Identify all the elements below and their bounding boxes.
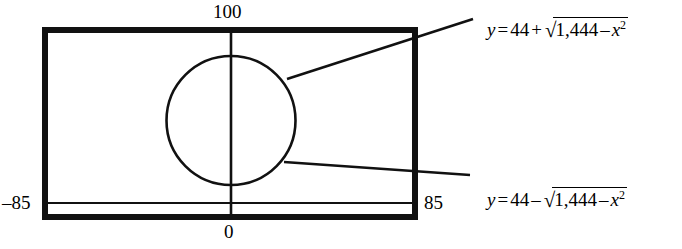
equation-lower-equals: = [495, 189, 510, 210]
equation-lower-operator: – [529, 189, 543, 210]
y-min-label: 0 [224, 222, 234, 241]
equation-lower-radicand: 1,444–x2 [552, 187, 627, 209]
equation-upper-equals: = [495, 19, 510, 40]
equation-upper-radicand-variable: x [612, 19, 620, 40]
x-max-label: 85 [424, 193, 443, 212]
equation-lower-radicand-exponent: 2 [619, 188, 625, 202]
radical-sign-icon: √ [545, 20, 557, 41]
equation-upper-radicand: 1,444–x2 [553, 17, 628, 39]
radical-sign-icon: √ [544, 190, 556, 211]
x-min-label: –85 [2, 193, 31, 212]
graphing-calculator-figure: 100 0 –85 85 y=44+√1,444–x2 y=44–√1,444–… [0, 0, 682, 249]
equation-lower-radicand-operator: – [597, 189, 611, 210]
equation-upper-radicand-operator: – [598, 19, 612, 40]
equation-lower: y=44–√1,444–x2 [487, 187, 627, 210]
equation-upper-operator: + [529, 19, 544, 40]
equation-upper: y=44+√1,444–x2 [487, 17, 628, 40]
equation-lower-radical: √1,444–x2 [543, 187, 627, 210]
equation-lower-radicand-variable: x [610, 189, 618, 210]
equation-lower-radicand-constant: 1,444 [554, 189, 597, 210]
equation-lower-constant: 44 [510, 189, 529, 210]
equation-upper-radical: √1,444–x2 [544, 17, 628, 40]
leader-line-lower [284, 162, 470, 175]
equation-upper-radicand-exponent: 2 [620, 18, 626, 32]
y-max-label: 100 [213, 2, 242, 21]
equation-upper-constant: 44 [510, 19, 529, 40]
equation-upper-radicand-constant: 1,444 [555, 19, 598, 40]
